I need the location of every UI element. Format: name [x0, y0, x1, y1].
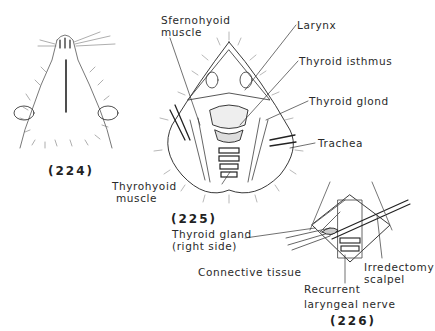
label-irredectomy-scalpel: Irredectomy scalpel — [364, 261, 434, 285]
figure-caption-224: (224) — [48, 164, 94, 178]
figure-caption-226: (226) — [330, 314, 376, 328]
label-thyroid-gland-right: Thyroid gland (right side) — [172, 228, 252, 252]
label-sternohyoid: Sfernohyoid muscle — [161, 14, 231, 38]
label-thyroid-isthmus: Thyroid isthmus — [299, 55, 392, 67]
label-trachea: Trachea — [318, 137, 363, 149]
label-thyrohyoid: Thyrohyoid muscle — [112, 180, 177, 204]
label-larynx: Larynx — [297, 19, 336, 31]
rat-head-figure — [14, 32, 118, 148]
label-thyroid-gland: Thyroid glond — [309, 95, 389, 107]
label-recurrent-laryngeal-nerve: Recurrent laryngeal nerve — [304, 283, 395, 310]
figure-caption-225: (225) — [171, 212, 217, 226]
irredectomy-figure — [286, 182, 410, 262]
neck-dissection-figure — [154, 32, 303, 203]
surgical-diagram: Sfernohyoid muscle Larynx Thyroid isthmu… — [0, 0, 435, 331]
label-connective-tissue: Connective tissue — [198, 266, 302, 278]
